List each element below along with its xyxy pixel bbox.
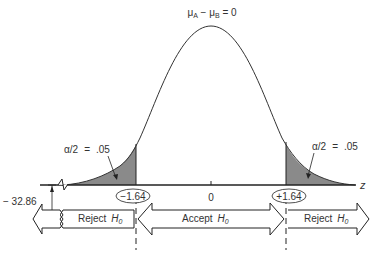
accept-label: AcceptH0 bbox=[182, 213, 229, 225]
center-tick-label: 0 bbox=[208, 192, 214, 203]
mean-difference-label: μA − μB = 0 bbox=[187, 7, 237, 19]
axis-break-icon bbox=[58, 179, 68, 190]
hypothesis-test-diagram: z 0 μA − μB = 0 α/2=.05 α/2=.05 −1.64 +1… bbox=[0, 0, 387, 260]
reject-right-label: RejectH0 bbox=[304, 213, 349, 225]
left-alpha-label: α/2=.05 bbox=[64, 144, 110, 155]
right-alpha-label: α/2=.05 bbox=[312, 141, 358, 152]
reject-left-label: RejectH0 bbox=[78, 213, 123, 225]
offset-label: − 32.86 bbox=[3, 196, 37, 207]
offset-arrow-up-icon bbox=[50, 186, 54, 192]
left-critical-value: −1.64 bbox=[120, 191, 146, 202]
z-axis-label: z bbox=[359, 179, 366, 191]
reject-left-arrowhead bbox=[33, 204, 60, 234]
right-critical-value: +1.64 bbox=[276, 191, 302, 202]
normal-curve bbox=[62, 26, 355, 185]
